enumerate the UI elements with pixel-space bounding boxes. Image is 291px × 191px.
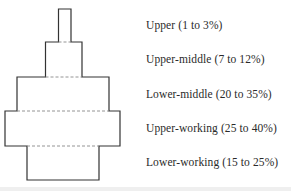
tier-label-lower-middle: Lower-middle (20 to 35%) (146, 88, 272, 100)
pyramid-outline (5, 9, 120, 180)
tier-label-upper: Upper (1 to 3%) (146, 19, 223, 31)
bottom-border-strip (0, 187, 291, 191)
class-structure-diagram: Upper (1 to 3%) Upper-middle (7 to 12%) … (0, 0, 291, 191)
tier-label-upper-working: Upper-working (25 to 40%) (146, 122, 277, 134)
tier-label-upper-middle: Upper-middle (7 to 12%) (146, 53, 265, 65)
tier-label-lower-working: Lower-working (15 to 25%) (146, 156, 278, 168)
